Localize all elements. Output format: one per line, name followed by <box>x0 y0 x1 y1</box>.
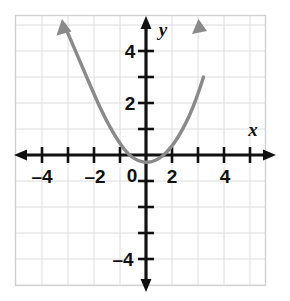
origin-label: 0 <box>127 165 138 186</box>
y-axis-name-label: y <box>157 19 168 40</box>
y-tick-label-4: 4 <box>125 41 136 62</box>
y-tick-label--4: –4 <box>112 249 134 270</box>
x-axis-name-label: x <box>247 119 258 140</box>
x-tick-label--2: –2 <box>84 166 105 187</box>
graph-canvas: x y 0 –4 –2 2 4 4 2 –4 <box>0 0 290 301</box>
x-tick-label-2: 2 <box>167 166 178 187</box>
y-tick-label-2: 2 <box>125 93 136 114</box>
x-tick-label--4: –4 <box>31 166 53 187</box>
x-tick-label-4: 4 <box>220 166 231 187</box>
coordinate-graph-figure: x y 0 –4 –2 2 4 4 2 –4 x y 0 –4 –2 2 4 4… <box>0 0 290 301</box>
plot-frame <box>16 16 266 286</box>
